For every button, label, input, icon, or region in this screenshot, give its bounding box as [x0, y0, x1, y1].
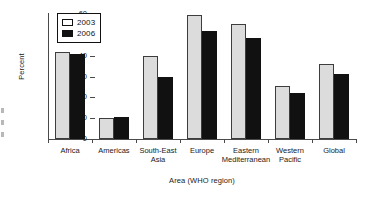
x-axis-title: Area (WHO region)	[48, 176, 356, 185]
x-tick-mark	[312, 139, 313, 143]
bar-2006	[114, 117, 129, 139]
bar-2003	[55, 52, 70, 140]
bar-chart-figure: Percent Area (WHO region) 0102030405060 …	[0, 0, 367, 197]
x-tick-label-line: Asia	[121, 155, 195, 164]
x-tick-mark	[180, 139, 181, 143]
x-tick-mark	[224, 139, 225, 143]
scan-artifact	[1, 120, 4, 125]
x-tick-mark	[268, 139, 269, 143]
legend-swatch-2003	[62, 19, 73, 26]
legend-label-2006: 2006	[77, 29, 95, 38]
bar-2003	[319, 64, 334, 139]
x-tick-label-line: Global	[297, 146, 367, 155]
bar-2003	[275, 86, 290, 139]
x-tick-label-line: Pacific	[253, 155, 327, 164]
legend-item-2003: 2003	[62, 17, 95, 28]
x-tick-mark	[92, 139, 93, 143]
bar-2006	[70, 54, 85, 139]
legend-label-2003: 2003	[77, 18, 95, 27]
x-tick-mark	[136, 139, 137, 143]
bar-group	[316, 14, 352, 139]
bar-group	[184, 14, 220, 139]
bar-2006	[290, 93, 305, 139]
bar-2006	[158, 77, 173, 140]
legend-item-2006: 2006	[62, 28, 95, 39]
bar-2006	[202, 31, 217, 139]
bar-2003	[187, 15, 202, 139]
y-axis-title: Percent	[17, 37, 26, 97]
bar-2003	[143, 56, 158, 139]
y-tick-mark	[90, 77, 95, 78]
x-tick-mark	[48, 139, 49, 143]
scan-artifact	[1, 108, 4, 113]
bar-2003	[231, 24, 246, 139]
bar-group	[228, 14, 264, 139]
bar-group	[140, 14, 176, 139]
scan-artifact	[1, 132, 4, 137]
bar-group	[272, 14, 308, 139]
x-tick-label-global: Global	[297, 146, 367, 155]
y-tick-mark	[90, 118, 95, 119]
chart-legend: 2003 2006	[57, 13, 101, 43]
bar-2003	[99, 118, 114, 139]
bar-2006	[334, 74, 349, 139]
bar-group	[96, 14, 132, 139]
bar-2006	[246, 38, 261, 139]
y-tick-mark	[90, 97, 95, 98]
y-tick-mark	[90, 56, 95, 57]
legend-swatch-2006	[62, 30, 73, 37]
x-tick-mark	[356, 139, 357, 143]
